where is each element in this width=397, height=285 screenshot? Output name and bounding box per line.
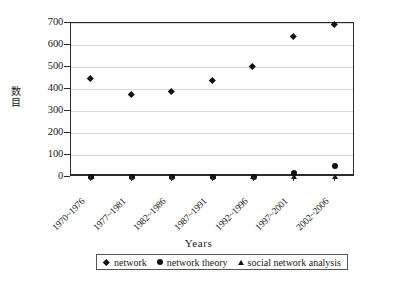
y-tick-label: 300 (29, 105, 63, 115)
y-axis-title: 数目 (8, 86, 20, 108)
gridline (71, 133, 353, 134)
y-tick-label: 500 (29, 61, 63, 71)
y-tick-mark (64, 176, 70, 177)
x-tick-label: 2002~2006 (294, 196, 330, 232)
x-tick-mark (253, 176, 254, 181)
x-tick-label: 1997~2001 (254, 196, 290, 232)
legend-label: network theory (167, 257, 228, 268)
chart-legend: networknetwork theorysocial network anal… (96, 254, 348, 270)
plot-area (70, 22, 354, 176)
gridline (71, 45, 353, 46)
y-tick-label: 400 (29, 83, 63, 93)
x-tick-label: 1982~1986 (132, 196, 168, 232)
x-tick-mark (131, 176, 132, 181)
y-tick-label: 200 (29, 127, 63, 137)
legend-entry: network theory (156, 257, 228, 268)
x-tick-mark (171, 176, 172, 181)
gridline (71, 89, 353, 90)
y-tick-label: 700 (29, 17, 63, 27)
scatter-chart-figure: 数目 7006005004003002001000 1970~19761977~… (0, 0, 397, 285)
x-tick-label: 1987~1991 (172, 196, 208, 232)
y-tick-label: 100 (29, 149, 63, 159)
x-tick-label: 1977~1981 (91, 196, 127, 232)
y-tick-label: 0 (29, 171, 63, 181)
circle-marker-icon (156, 258, 165, 267)
x-tick-mark (293, 176, 294, 181)
x-tick-label: 1970~1976 (51, 196, 87, 232)
diamond-marker-icon (103, 258, 112, 267)
y-tick-label: 600 (29, 39, 63, 49)
gridline (71, 23, 353, 24)
gridline (71, 155, 353, 156)
legend-entry: network (103, 257, 147, 268)
x-tick-mark (334, 176, 335, 181)
x-axis-title: Years (0, 237, 397, 249)
legend-label: network (114, 257, 147, 268)
x-tick-mark (90, 176, 91, 181)
triangle-marker-icon (237, 258, 246, 267)
x-tick-label: 1992~1996 (213, 196, 249, 232)
legend-label: social network analysis (248, 257, 341, 268)
gridline (71, 111, 353, 112)
x-tick-mark (212, 176, 213, 181)
legend-entry: social network analysis (237, 257, 341, 268)
gridline (71, 67, 353, 68)
